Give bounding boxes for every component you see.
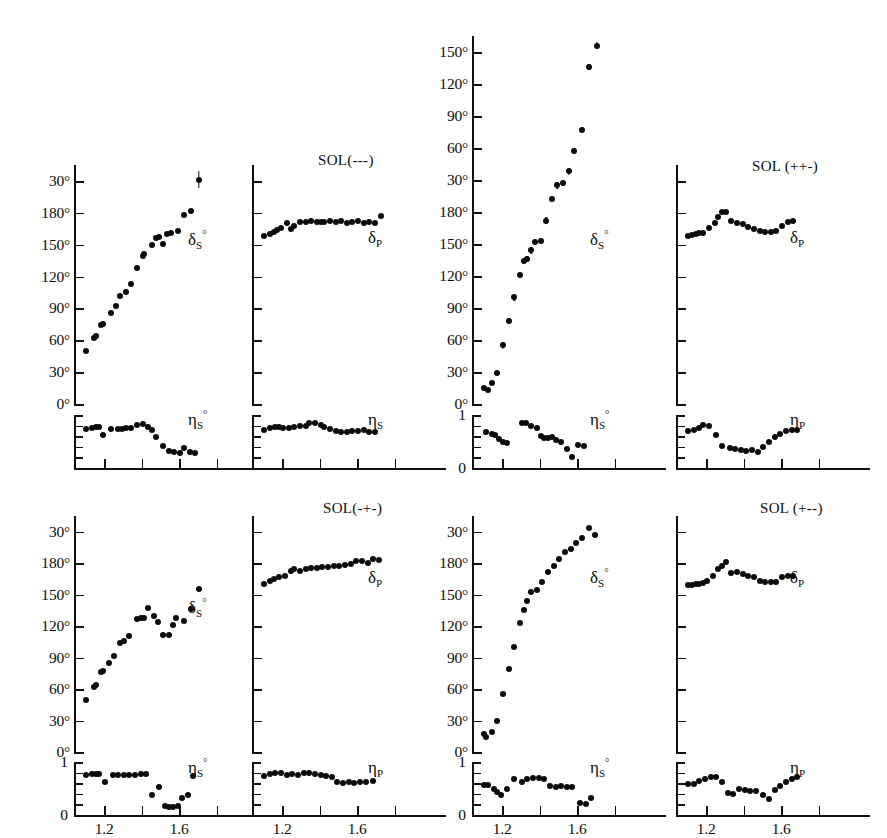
p1-eta-s-point [149,427,155,433]
p4-delta-p-point [790,218,796,224]
p6-eta-p-point [363,779,369,785]
p4-eta-p-ytick [676,426,685,428]
curve-label-degree: ° [605,408,609,420]
p4-eta-p-point [713,432,719,438]
p1-delta-s-ytick [74,245,84,247]
p3-eta-s-curve-label: ηS° [590,408,609,431]
p4-delta-p-y-axis [676,165,678,405]
p3-delta-s-ytick-label: 120° [410,75,468,93]
p1-eta-s-ytick [74,447,83,449]
p7-delta-s-ytick-label: 180° [410,554,468,572]
x-tick [282,806,284,815]
p3-delta-s-ytick [472,340,482,342]
p5-delta-s-ytick-label: 180° [12,554,70,572]
p5-delta-s-point [170,622,176,628]
p3-delta-s-point [586,64,592,70]
x-tick [179,459,181,468]
p8-delta-p-point [723,559,729,565]
p1-delta-s-point [141,251,147,257]
p3-delta-s-ytick-label: 180° [410,203,468,221]
p1-delta-s-point [196,177,202,183]
x-tick-label: 1.2 [273,820,292,838]
p5-delta-s-point [196,586,202,592]
p4-delta-p-point [715,214,721,220]
curve-label-subscript: S [599,767,605,779]
p7-eta-s-point [583,801,589,807]
p6-delta-p-ytick [252,721,262,723]
p7-delta-s-point [521,607,527,613]
p1-eta-s-point [96,424,102,430]
p1-eta-s-point [108,426,114,432]
p6-delta-p-y-axis [252,516,254,753]
p2-eta-s-y-axis [252,415,254,469]
curve-label-subscript: S [599,419,605,431]
p1-delta-s-point [113,303,119,309]
p3-delta-s-point [566,168,572,174]
p5-delta-s-curve-label: δS° [188,596,207,619]
p1-eta-s-ytick [74,457,83,459]
p3-delta-s-ytick-label: 150° [410,235,468,253]
p7-delta-s-point [524,598,530,604]
p3-delta-s-ytick-label: 90° [410,299,468,317]
p7-eta-s-point [541,776,547,782]
p7-eta-s-y-axis [472,762,474,816]
p1-delta-s-ytick-label: 180° [12,204,70,222]
x-tick [357,806,359,815]
x-tick [706,459,708,468]
p5-eta-s-ytick [74,762,83,764]
p1-delta-s-ytick [74,213,84,215]
p4-delta-p-curve-label: δP [790,226,804,249]
p2-delta-p-ytick [252,372,262,374]
x-tick [217,806,219,815]
p7-delta-s-point [556,556,562,562]
curve-label-symbol: η [790,410,799,429]
p7-eta-s-point [588,795,594,801]
p1-delta-s-point [181,212,187,218]
p4-eta-p-point [760,444,766,450]
curve-label-symbol: δ [790,228,798,247]
p6-eta-p-point [329,774,335,780]
p5-eta-s-ybottom-label: 0 [44,806,68,824]
p1-delta-s-ytick-label: 30° [12,172,70,190]
p2-delta-p-ytick [252,308,262,310]
p3-delta-s-point [560,180,566,186]
p7-eta-s-point [498,792,504,798]
p5-eta-s-ytick [74,773,83,775]
curve-label-subscript: P [799,767,805,779]
p7-delta-s-ytick-label: 150° [410,586,468,604]
x-tick [819,806,821,815]
p7-delta-s-ytick [472,626,482,628]
x-axis-col4 [676,468,870,470]
p4-eta-p-curve-label: ηP [790,408,805,431]
p8-eta-p-curve-label: ηP [790,756,805,779]
p8-eta-p-ytick [676,804,685,806]
p7-delta-s-point [551,563,557,569]
x-tick [781,459,783,468]
p3-delta-s-point [500,342,506,348]
p5-delta-s-ytick-label: 120° [12,617,70,635]
p6-delta-p-point [376,557,382,563]
p3-delta-s-point [511,294,517,300]
p7-delta-s-point [489,729,495,735]
p2-eta-s-ytick [252,447,261,449]
x-tick-label: 1.2 [697,820,716,838]
p7-delta-s-ytick [472,689,482,691]
p6-eta-p-ytick [252,773,261,775]
p8-eta-p-point [753,788,759,794]
curve-label-symbol: δ [368,228,376,247]
p3-delta-s-ytick-label: 90° [410,107,468,125]
p1-delta-s-ytick-label: 60° [12,331,70,349]
p4-eta-p-ytick [676,436,685,438]
p8-delta-p-ytick [676,626,686,628]
p3-eta-s-point [581,443,587,449]
x-tick [179,806,181,815]
curve-label-subscript: S [598,239,604,251]
x-tick [615,459,617,468]
p3-delta-s-ytick [472,212,482,214]
p2-eta-s-ytick [252,436,261,438]
p3-delta-s-ytick [472,84,482,86]
p3-eta-s-point [564,446,570,452]
p7-delta-s-point [483,734,489,740]
p1-delta-s-ytick [74,277,84,279]
x-tick [744,806,746,815]
